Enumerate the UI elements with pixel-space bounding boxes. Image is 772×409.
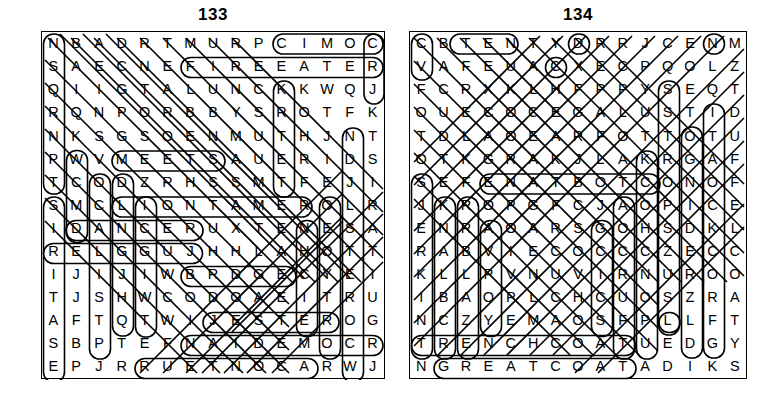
grid-cell: G [110,78,133,101]
grid-cell: Y [724,332,746,355]
grid-cell: E [477,170,499,193]
grid-cell: C [432,78,454,101]
grid-cell: O [410,147,432,170]
grid-cell: T [156,32,179,55]
grid-cell: E [500,309,522,332]
grid-cell: L [110,193,133,216]
grid-cell: E [522,240,544,263]
grid-cell: S [42,332,65,355]
grid-cell: Y [316,263,339,286]
grid-cell: R [156,101,179,124]
grid-cell: J [316,124,339,147]
grid-cell: C [156,286,179,309]
grid-cell: J [361,355,384,378]
grid-cell: R [455,193,477,216]
grid-cell: S [247,309,270,332]
grid-cell: A [455,286,477,309]
grid-cell: W [316,78,339,101]
grid-cell: R [224,55,247,78]
grid-cell: P [612,78,634,101]
grid-cell: I [133,263,156,286]
grid-cell: S [724,355,746,378]
grid-cell: U [634,101,656,124]
grid-cell: R [500,147,522,170]
grid-cell: C [293,263,316,286]
grid-cell: D [567,32,589,55]
grid-cell: S [224,170,247,193]
grid-cell: M [65,193,88,216]
grid-cell: J [202,309,225,332]
grid-cell: P [65,355,88,378]
grid-cell: R [455,78,477,101]
grid-cell: C [612,240,634,263]
grid-cell: H [179,170,202,193]
grid-cell: P [477,263,499,286]
grid-cell: C [410,32,432,55]
puzzle-grid-133[interactable]: NBADRTMURPCIMOCSAECNEFIREEATERQIIGTALUNC… [41,31,385,379]
grid-cell: E [477,32,499,55]
grid-cell: O [156,193,179,216]
grid-cell: T [270,170,293,193]
grid-cell: N [202,124,225,147]
grid-cell: Z [724,55,746,78]
grid-cell: O [477,286,499,309]
grid-cell: P [500,193,522,216]
grid-cell: J [567,147,589,170]
grid-cell: B [65,32,88,55]
grid-cell: K [701,217,723,240]
grid-cell: E [316,170,339,193]
grid-cell: H [224,240,247,263]
grid-cell: O [724,263,746,286]
grid-cell: S [42,55,65,78]
grid-cell: C [270,32,293,55]
grid-cell: E [410,217,432,240]
grid-cell: R [316,355,339,378]
grid-cell: B [432,286,454,309]
grid-cell: C [361,32,384,55]
grid-cell: L [701,55,723,78]
grid-cell: J [634,32,656,55]
grid-cell: F [179,55,202,78]
grid-cell: C [65,170,88,193]
grid-cell: O [316,240,339,263]
puzzle-grid-134[interactable]: CBTENTYDRRJCENMVAFEUACXECPQOLZFCRXKLHFPP… [409,31,747,379]
grid-cell: A [432,55,454,78]
grid-cell: I [65,78,88,101]
grid-cell: C [589,286,611,309]
grid-cell: K [500,78,522,101]
grid-cell: T [432,147,454,170]
grid-cell: L [179,78,202,101]
grid-cell: A [589,355,611,378]
grid-cell: U [202,217,225,240]
grid-cell: T [316,55,339,78]
puzzle-133: 133 NBADRTMURPCIMOCSAECNEFIREEATERQIIGTA… [41,6,385,379]
grid-cell: R [224,32,247,55]
grid-cell: K [65,124,88,147]
grid-cell: H [634,217,656,240]
grid-cell: U [432,101,454,124]
grid-cell: N [133,55,156,78]
grid-cell: C [477,101,499,124]
grid-cell: A [88,217,111,240]
grid-cell: C [432,309,454,332]
grid-cell: Q [65,101,88,124]
grid-cell: I [589,263,611,286]
grid-cell: S [656,286,678,309]
grid-cell: E [179,124,202,147]
grid-cell: T [247,217,270,240]
grid-cell: J [338,170,361,193]
grid-cell: E [679,78,701,101]
grid-cell: I [679,355,701,378]
grid-cell: O [179,286,202,309]
grid-cell: T [133,309,156,332]
grid-cell: S [247,101,270,124]
grid-cell: C [544,332,566,355]
grid-cell: O [410,101,432,124]
grid-cell: K [410,263,432,286]
grid-cell: I [202,55,225,78]
grid-cell: D [679,217,701,240]
grid-cell: G [133,240,156,263]
grid-cell: T [701,124,723,147]
grid-cell: J [110,263,133,286]
grid-cell: N [42,32,65,55]
